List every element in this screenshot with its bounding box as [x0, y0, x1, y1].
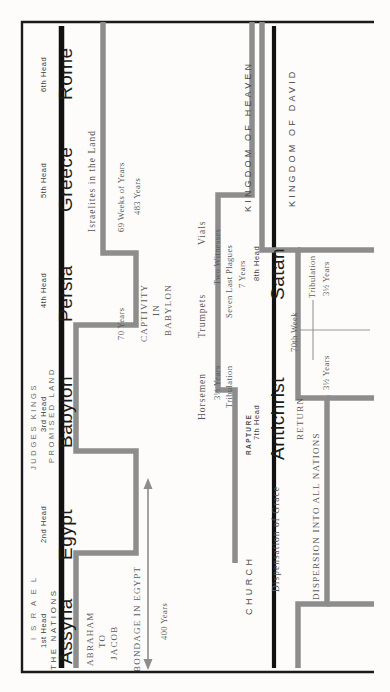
seventieth-week-stub: [298, 250, 374, 604]
seventieth-week-divider: [300, 300, 370, 360]
church-track-path: [218, 22, 252, 563]
david-track-path: [262, 22, 327, 668]
israel-track-path: [76, 22, 136, 668]
four-hundred-years-arrow: [144, 478, 153, 670]
prophetic-timeline-chart: Rome 6th Head Greece 5th Head Persia 4th…: [0, 0, 390, 692]
timeline-lines: [0, 0, 390, 692]
